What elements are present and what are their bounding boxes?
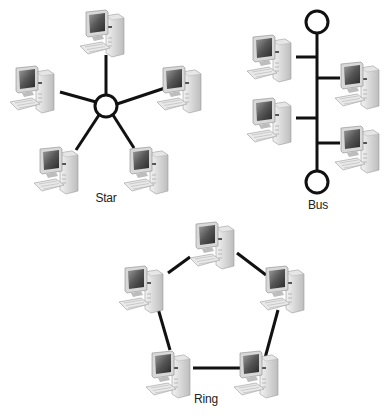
bus-terminator-top (306, 11, 328, 33)
topology-graphics (0, 0, 389, 419)
ring-computer-bottom-right-icon (234, 351, 278, 398)
star-computer-bottom-right-icon (124, 147, 168, 194)
bus-label: Bus (308, 198, 328, 212)
star-link-left (60, 92, 96, 102)
ring-link-top-right (237, 253, 266, 275)
ring-link-top-left (168, 257, 190, 273)
bus-computer-4-icon (335, 126, 379, 173)
star-link-bottom-right (113, 115, 134, 148)
ring-computer-left-icon (119, 266, 163, 313)
network-topologies-diagram: Star Bus Ring (0, 0, 389, 419)
star-hub (95, 95, 117, 117)
bus-computer-1-icon (247, 35, 291, 82)
ring-link-left (157, 305, 170, 350)
star-computer-right-icon (157, 66, 201, 113)
bus-computer-2-icon (335, 62, 379, 109)
star-link-bottom-left (76, 115, 99, 150)
ring-link-right (265, 310, 278, 358)
star-computer-top-icon (80, 10, 124, 57)
star-computer-left-icon (10, 66, 54, 113)
bus-terminator-bottom (306, 171, 328, 193)
bus-computer-3-icon (247, 98, 291, 145)
star-label: Star (95, 191, 116, 205)
ring-label: Ring (194, 392, 218, 406)
star-topology (60, 55, 165, 150)
ring-computer-bottom-left-icon (146, 351, 190, 398)
ring-computer-right-icon (260, 266, 304, 313)
bus-topology (296, 11, 340, 193)
ring-computer-top-icon (190, 222, 234, 269)
star-computer-bottom-left-icon (34, 147, 78, 194)
